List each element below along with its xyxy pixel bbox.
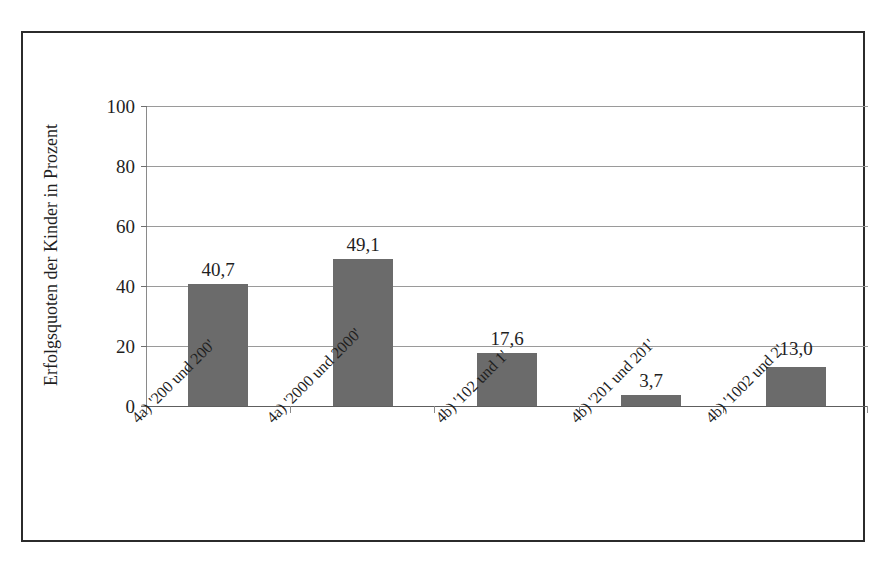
y-tick-label-40: 40 xyxy=(116,277,135,296)
y-tick-label-80: 80 xyxy=(116,157,135,176)
x-axis-category-labels: 4a) '200 und 200' 4a) '2000 und 2000' 4b… xyxy=(146,414,868,564)
y-tick-mark-60 xyxy=(141,226,147,227)
gridline-100 xyxy=(146,106,868,107)
y-tick-mark-40 xyxy=(141,286,147,287)
bar-4b-201-und-201 xyxy=(621,395,681,406)
y-tick-label-60: 60 xyxy=(116,217,135,236)
gridline-60 xyxy=(146,226,868,227)
bar-value-4b-102-und-1: 17,6 xyxy=(477,329,537,348)
figure-container: Erfolgsquoten der Kinder in Prozent 100 … xyxy=(0,0,883,568)
y-tick-mark-100 xyxy=(141,106,147,107)
bar-value-4a-200-und-200: 40,7 xyxy=(188,260,248,279)
x-tick-mark-5 xyxy=(867,406,868,413)
y-tick-mark-20 xyxy=(141,346,147,347)
bar-value-4a-2000-und-2000: 49,1 xyxy=(333,235,393,254)
y-axis-line xyxy=(146,106,147,407)
y-tick-mark-80 xyxy=(141,166,147,167)
y-tick-label-20: 20 xyxy=(116,337,135,356)
y-tick-label-100: 100 xyxy=(107,97,136,116)
y-axis-tick-labels: 100 80 60 40 20 0 xyxy=(83,106,135,406)
gridline-40 xyxy=(146,286,868,287)
gridline-80 xyxy=(146,166,868,167)
bar-4a-2000-und-2000 xyxy=(333,259,393,406)
x-axis-baseline xyxy=(146,406,868,407)
bar-4b-1002-und-2 xyxy=(766,367,826,406)
y-axis-title: Erfolgsquoten der Kinder in Prozent xyxy=(41,45,61,465)
chart-frame: Erfolgsquoten der Kinder in Prozent 100 … xyxy=(21,31,865,542)
